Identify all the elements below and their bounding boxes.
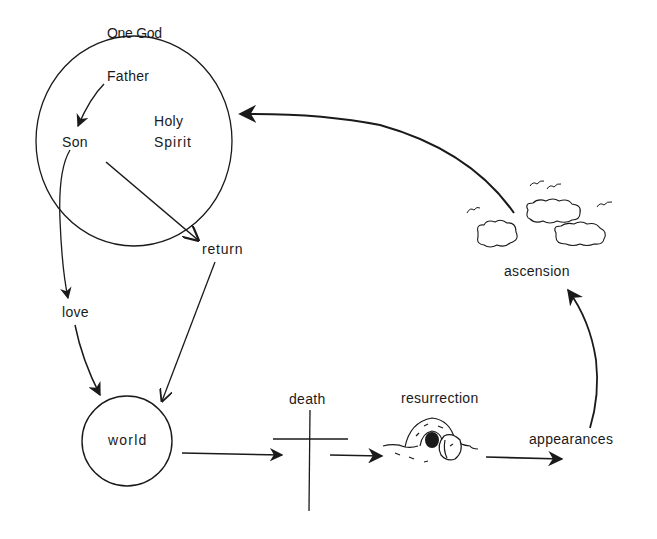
ascension-label: ascension <box>504 263 570 279</box>
love-label: love <box>62 304 89 320</box>
edge-ascension-god <box>240 114 514 213</box>
edge-love-world <box>75 325 100 395</box>
edge-resurrection-appearances <box>486 457 562 459</box>
edge-appearances-ascension <box>568 290 597 428</box>
god-label: One God <box>107 25 162 41</box>
edge-father-son <box>78 84 104 126</box>
holy-spirit-label-line2: Spirit <box>154 134 192 150</box>
appearances-label: appearances <box>529 431 613 447</box>
cross-icon <box>273 410 348 511</box>
father-label: Father <box>107 68 149 84</box>
death-label: death <box>289 391 326 407</box>
edge-death-resurrection <box>330 455 382 456</box>
world-label: world <box>108 432 147 448</box>
edge-world-death <box>182 453 282 455</box>
edge-son-return <box>106 162 198 240</box>
son-label: Son <box>62 134 88 150</box>
clouds-icon <box>478 199 606 247</box>
resurrection-label: resurrection <box>401 390 479 406</box>
return-label: return <box>202 241 243 257</box>
holy-spirit-label-line1: Holy <box>154 113 183 129</box>
edge-son-love <box>60 150 70 298</box>
birds-icon <box>467 181 612 213</box>
tomb-icon <box>383 418 478 462</box>
edge-return-world <box>162 262 215 401</box>
